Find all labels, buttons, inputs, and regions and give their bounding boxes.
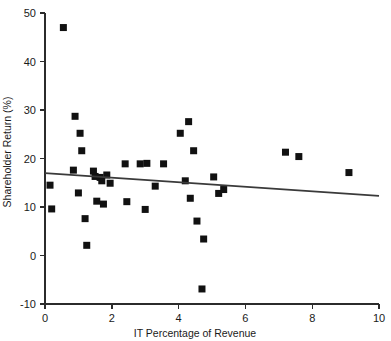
data-point-marker bbox=[142, 206, 149, 213]
x-tick-label: 2 bbox=[109, 312, 115, 324]
x-tick-label: 0 bbox=[42, 312, 48, 324]
chart-canvas: -1001020304050 0246810 IT Percentage of … bbox=[0, 0, 391, 341]
data-point-marker bbox=[220, 186, 227, 193]
data-point-marker bbox=[107, 180, 114, 187]
data-point-marker bbox=[100, 201, 107, 208]
data-point-marker bbox=[177, 130, 184, 137]
x-axis-label: IT Percentage of Revenue bbox=[134, 327, 257, 339]
data-point-marker bbox=[82, 215, 89, 222]
scatter-chart: -1001020304050 0246810 IT Percentage of … bbox=[0, 0, 391, 341]
data-point-marker bbox=[83, 242, 90, 249]
data-point-marker bbox=[282, 149, 289, 156]
axes bbox=[45, 13, 379, 304]
data-point-marker bbox=[143, 160, 150, 167]
x-tick-label: 6 bbox=[242, 312, 248, 324]
data-point-marker bbox=[72, 113, 79, 120]
x-axis-ticks: 0246810 bbox=[42, 304, 385, 324]
y-axis-ticks: -1001020304050 bbox=[20, 7, 45, 310]
data-point-marker bbox=[187, 195, 194, 202]
data-point-marker bbox=[295, 153, 302, 160]
data-point-marker bbox=[77, 130, 84, 137]
y-axis-label: Shareholder Return (%) bbox=[1, 97, 13, 208]
data-point-marker bbox=[185, 118, 192, 125]
data-point-marker bbox=[210, 173, 217, 180]
data-point-marker bbox=[193, 218, 200, 225]
data-point-marker bbox=[160, 160, 167, 167]
data-point-marker bbox=[70, 167, 77, 174]
data-point-marker bbox=[190, 147, 197, 154]
data-point-marker bbox=[152, 183, 159, 190]
data-point-marker bbox=[75, 189, 82, 196]
y-tick-label: 20 bbox=[24, 153, 36, 165]
y-tick-label: 50 bbox=[24, 7, 36, 19]
data-point-marker bbox=[137, 160, 144, 167]
data-point-marker bbox=[60, 24, 67, 31]
y-tick-label: 40 bbox=[24, 56, 36, 68]
data-point-marker bbox=[78, 147, 85, 154]
data-point-marker bbox=[122, 160, 129, 167]
data-points bbox=[47, 24, 353, 292]
data-point-marker bbox=[345, 169, 352, 176]
data-point-marker bbox=[198, 285, 205, 292]
y-tick-label: 10 bbox=[24, 201, 36, 213]
data-point-marker bbox=[93, 198, 100, 205]
x-tick-label: 10 bbox=[373, 312, 385, 324]
y-tick-label: 30 bbox=[24, 104, 36, 116]
x-tick-label: 4 bbox=[176, 312, 182, 324]
data-point-marker bbox=[123, 198, 130, 205]
data-point-marker bbox=[47, 182, 54, 189]
data-point-marker bbox=[48, 205, 55, 212]
data-point-marker bbox=[200, 236, 207, 243]
y-tick-label: 0 bbox=[30, 250, 36, 262]
x-tick-label: 8 bbox=[309, 312, 315, 324]
y-tick-label: -10 bbox=[20, 298, 36, 310]
